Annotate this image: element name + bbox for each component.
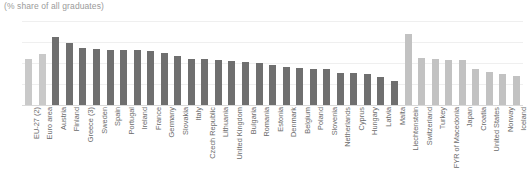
bar-slot [22,21,36,105]
x-axis-label-slot: EU-27 (2) [22,107,36,184]
bar [269,65,276,105]
bar [283,67,290,105]
x-axis-label-slot: United Kingdom [225,107,239,184]
bar-slot [63,21,77,105]
x-axis-label-slot: Turkey [428,107,442,184]
plot-area: 010203040 [22,21,523,105]
x-axis-label-slot: Cyprus [347,107,361,184]
bar [405,34,412,105]
bar-slot [442,21,456,105]
bar [256,63,263,105]
x-axis-label-slot: Austria [49,107,63,184]
bar [242,62,249,105]
x-axis-tick-label: Iceland [520,107,527,131]
x-axis-label-slot: Poland [306,107,320,184]
bar-slot [239,21,253,105]
bar-slot [347,21,361,105]
x-axis-label-slot: Hungary [361,107,375,184]
bar [201,59,208,105]
bar-slot [428,21,442,105]
x-axis-label-slot: Euro area [36,107,50,184]
x-axis-label-slot: Liechtenstein [401,107,415,184]
bar-slot [36,21,50,105]
bar [188,59,195,105]
bar-slot [361,21,375,105]
bar-slot [90,21,104,105]
bar-slot [374,21,388,105]
bar-slot [496,21,510,105]
bar [66,43,73,105]
bar-slot [76,21,90,105]
bar-slot [510,21,524,105]
bar-slot [483,21,497,105]
bar-slot [198,21,212,105]
bar [161,53,168,105]
bar [25,59,32,105]
bar [310,69,317,105]
bar-slot [456,21,470,105]
chart-container: (% share of all graduates) 010203040 EU-… [0,0,527,184]
bar-slot [225,21,239,105]
x-axis-label-slot: Portugal [117,107,131,184]
bar [391,81,398,105]
bar [499,74,506,105]
x-axis-label-slot: Denmark [279,107,293,184]
x-axis-label-slot: Estonia [266,107,280,184]
bar-slot [388,21,402,105]
bar [364,74,371,105]
bar-slot [320,21,334,105]
bar [39,54,46,105]
bar-slot [157,21,171,105]
bar-slot [171,21,185,105]
x-axis-label-slot: Switzerland [415,107,429,184]
bar-slot [334,21,348,105]
bar [445,60,452,105]
bar-slot [306,21,320,105]
bar-slot [279,21,293,105]
x-axis-label-slot: Latvia [374,107,388,184]
x-axis-label-slot: Finland [63,107,77,184]
x-axis-label-slot: Slovenia [320,107,334,184]
bar-slot [469,21,483,105]
bar-slot [415,21,429,105]
bar-slot [252,21,266,105]
bar-slot [103,21,117,105]
bar [174,56,181,105]
x-axis-label-slot: Japan [456,107,470,184]
x-axis-labels: EU-27 (2)Euro areaAustriaFinlandGreece (… [22,107,523,184]
bar [459,60,466,105]
bar [93,49,100,105]
bar [486,72,493,105]
bar-slot [130,21,144,105]
x-axis-label-slot: Italy [185,107,199,184]
bar [472,69,479,105]
x-axis-label-slot: Netherlands [334,107,348,184]
x-axis-label-slot: Greece (3) [76,107,90,184]
x-axis-label-slot: Belgium [293,107,307,184]
x-axis-label-slot: Spain [103,107,117,184]
bar [337,73,344,105]
bar-slot [117,21,131,105]
bar [215,60,222,105]
x-axis-label-slot: Lithuania [212,107,226,184]
bar [323,69,330,105]
bar [52,37,59,105]
bar [418,58,425,105]
x-axis-label-slot: United States [483,107,497,184]
x-axis-label-slot: Romania [252,107,266,184]
x-axis-label-slot: Slovakia [171,107,185,184]
bar [79,48,86,105]
x-axis-label-slot: Germany [157,107,171,184]
x-axis-label-slot: Ireland [130,107,144,184]
x-axis-label-slot: Malta [388,107,402,184]
bar-slot [401,21,415,105]
bar-slot [212,21,226,105]
bar-slot [144,21,158,105]
bar-slot [185,21,199,105]
x-axis-label-slot: Bulgaria [239,107,253,184]
bar [513,76,520,105]
x-axis-label-slot: Iceland [510,107,524,184]
x-axis-label-slot: FYR of Macedonia [442,107,456,184]
bar [120,50,127,105]
bar [377,77,384,105]
